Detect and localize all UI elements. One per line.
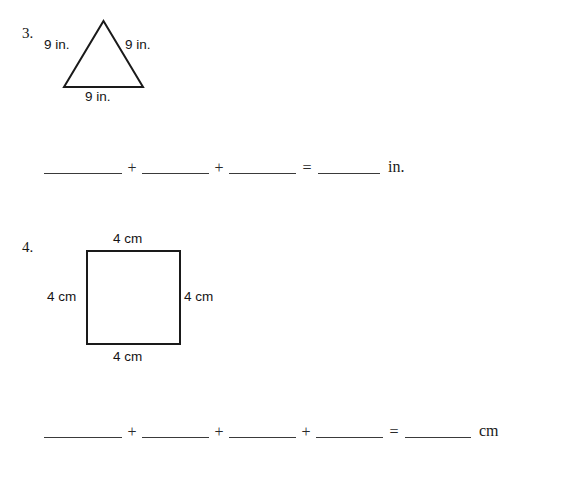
triangle-left-side-label: 9 in.	[44, 38, 70, 52]
problem-4-result-blank[interactable]	[405, 424, 471, 438]
problem-4-blank-2[interactable]	[142, 424, 209, 438]
problem-3-equation-row: + + = in.	[44, 160, 404, 174]
problem-4-operator-2: +	[209, 425, 229, 438]
square-figure	[86, 250, 181, 345]
problem-3-blank-1[interactable]	[44, 160, 122, 174]
problem-3-blank-3[interactable]	[229, 160, 296, 174]
problem-4-equals-sign: =	[383, 425, 405, 438]
problem-3-equals-sign: =	[296, 161, 318, 174]
square-top-side-label: 4 cm	[113, 232, 142, 246]
problem-3-blank-2[interactable]	[142, 160, 209, 174]
triangle-figure	[58, 16, 150, 92]
problem-3-operator-1: +	[122, 161, 142, 174]
problem-4-blank-4[interactable]	[316, 424, 383, 438]
problem-4-equation-row: + + + = cm	[44, 424, 499, 438]
problem-4-unit-label: cm	[479, 424, 499, 438]
problem-4-operator-3: +	[296, 425, 316, 438]
problem-3-number: 3.	[22, 26, 33, 41]
square-bottom-side-label: 4 cm	[113, 350, 142, 364]
square-left-side-label: 4 cm	[47, 290, 76, 304]
problem-4-blank-3[interactable]	[229, 424, 296, 438]
problem-4-number: 4.	[22, 240, 33, 255]
square-right-side-label: 4 cm	[184, 290, 213, 304]
problem-3-unit-label: in.	[388, 160, 404, 174]
triangle-right-side-label: 9 in.	[125, 38, 151, 52]
problem-4-operator-1: +	[122, 425, 142, 438]
problem-4-blank-1[interactable]	[44, 424, 122, 438]
problem-3-result-blank[interactable]	[318, 160, 380, 174]
problem-3-operator-2: +	[209, 161, 229, 174]
worksheet-page: 3. 9 in. 9 in. 9 in. + + = in. 4. 4 cm	[0, 0, 569, 482]
triangle-bottom-side-label: 9 in.	[85, 90, 111, 104]
